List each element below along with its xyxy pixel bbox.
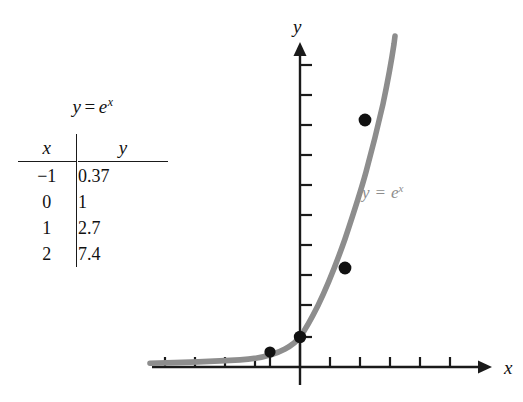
table-cell-x: −1 [18,163,76,189]
table-cell-x: 1 [18,215,76,241]
exponential-function-figure: y=ex x y −1 [0,0,523,402]
data-point [359,114,372,127]
table-header-x: x [18,134,76,162]
table-caption-base: e [99,96,108,117]
x-axis-label: x [503,357,513,378]
data-point [294,331,306,343]
data-points [264,114,371,358]
table-cell-x: 2 [18,241,76,267]
curve-label-lhs: y [360,183,370,202]
data-point [339,262,352,275]
x-axis-arrowhead [478,361,492,374]
curve-label-operator: = [375,183,386,202]
table-caption-lhs: y [73,96,82,117]
data-point [264,346,275,357]
y-axis-ticks [300,65,312,337]
curve-label: y=ex [360,182,404,202]
table-caption-exponent: x [108,96,114,109]
y-axis-arrowhead [294,42,307,56]
exponential-curve-plot: y x y=ex [140,0,523,402]
graph-block: y x y=ex [140,0,523,402]
exponential-curve [150,36,395,363]
table-cell-x: 0 [18,189,76,215]
curve-label-exponent: x [398,182,404,194]
y-axis-label: y [291,16,302,37]
table-caption-operator: = [82,96,99,117]
